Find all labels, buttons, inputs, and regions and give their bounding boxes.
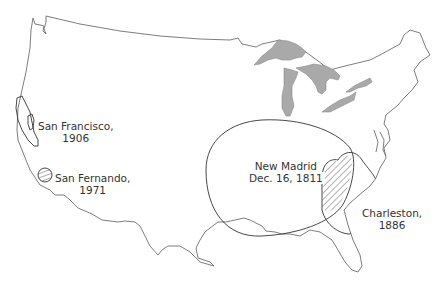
lake-ontario [346, 78, 372, 92]
chesapeake-bay-outline [374, 130, 386, 156]
great-lakes [254, 40, 372, 116]
label-san-fernando-year: 1971 [55, 184, 130, 196]
lake-michigan [282, 68, 298, 116]
us-earthquake-map [0, 0, 444, 303]
label-new-madrid-name: New Madrid [253, 160, 319, 172]
lake-huron [296, 64, 340, 94]
label-new-madrid-date: Dec. 16, 1811 [247, 172, 325, 184]
label-san-francisco: San Francisco, 1906 [38, 120, 113, 144]
label-san-fernando-name: San Fernando, [55, 172, 130, 184]
label-san-francisco-year: 1906 [38, 132, 113, 144]
lake-erie [322, 92, 356, 112]
label-charleston-name: Charleston, [362, 207, 422, 219]
label-san-francisco-name: San Francisco, [38, 120, 113, 132]
label-charleston: Charleston, 1886 [362, 207, 422, 231]
label-new-madrid: New Madrid Dec. 16, 1811 [247, 160, 325, 184]
zone-san-fernando [38, 168, 52, 182]
label-charleston-year: 1886 [362, 219, 422, 231]
label-san-fernando: San Fernando, 1971 [55, 172, 130, 196]
us-outline [17, 16, 430, 272]
